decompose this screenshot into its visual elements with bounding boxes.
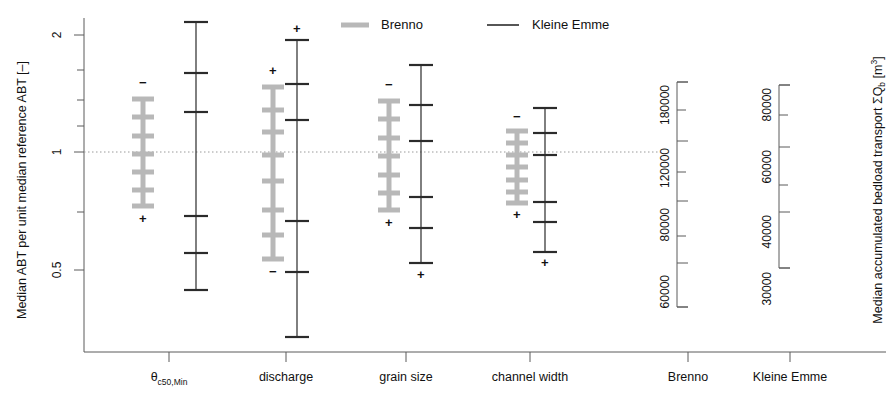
sign-kleineemme-g3-bottom: + bbox=[417, 268, 425, 281]
series-kleineemme-group-2 bbox=[285, 40, 309, 337]
x-label-discharge: discharge bbox=[236, 370, 336, 384]
x-label-theta: θc50,Min bbox=[119, 370, 219, 387]
x-label-theta-main: θ bbox=[151, 370, 158, 384]
right-axis-title: Median accumulated bedload transport ΣQb… bbox=[869, 56, 888, 323]
sign-brenno-g1-bottom: + bbox=[139, 212, 147, 225]
y-tick-label-0point5: 0.5 bbox=[50, 262, 64, 279]
figure-canvas: 2 1 0.5 Median ABT per unit median refer… bbox=[0, 0, 894, 402]
y-tick-label-1: 1 bbox=[50, 149, 64, 156]
series-brenno-group-2 bbox=[262, 85, 284, 261]
y-axis-title: Median ABT per unit median reference ABT… bbox=[15, 61, 29, 319]
x-label-brenno: Brenno bbox=[638, 370, 738, 384]
right-kleineemme-tick-40000: 40000 bbox=[760, 215, 774, 248]
right-kleineemme-tick-30000: 30000 bbox=[760, 272, 774, 305]
right-brenno-tick-60000: 60000 bbox=[658, 275, 672, 308]
sign-brenno-g4-bottom: + bbox=[513, 208, 521, 221]
x-label-grain-size: grain size bbox=[356, 370, 456, 384]
right-brenno-tick-180000: 180000 bbox=[658, 85, 672, 125]
sign-kleineemme-g2-top: + bbox=[293, 22, 301, 35]
right-axis-kleine-emme bbox=[779, 85, 790, 268]
sign-brenno-g2-bottom: − bbox=[269, 265, 277, 278]
sign-brenno-g2-top: + bbox=[269, 64, 277, 77]
series-brenno-group-1 bbox=[132, 97, 154, 208]
x-label-channel-width: channel width bbox=[470, 370, 590, 384]
sign-brenno-g3-top: − bbox=[385, 78, 393, 91]
plot-svg bbox=[0, 0, 894, 402]
series-brenno-group-4 bbox=[506, 130, 528, 205]
x-label-theta-sub: c50,Min bbox=[158, 377, 188, 387]
sign-brenno-g3-bottom: + bbox=[385, 216, 393, 229]
y-minor-ticks bbox=[77, 70, 84, 212]
sign-brenno-g1-top: − bbox=[139, 76, 147, 89]
legend-label-kleine-emme: Kleine Emme bbox=[532, 17, 609, 32]
legend-label-brenno: Brenno bbox=[381, 17, 423, 32]
series-kleineemme-group-4 bbox=[533, 108, 557, 252]
sign-kleineemme-g4-bottom: + bbox=[541, 256, 549, 269]
sign-brenno-g4-top: − bbox=[513, 110, 521, 123]
series-brenno-group-3 bbox=[378, 99, 400, 212]
right-kleineemme-tick-60000: 60000 bbox=[760, 150, 774, 183]
x-label-kleine-emme: Kleine Emme bbox=[730, 370, 850, 384]
series-kleineemme-group-1 bbox=[184, 22, 208, 290]
series-kleineemme-group-3 bbox=[409, 65, 433, 263]
x-ticks bbox=[169, 352, 790, 362]
right-kleineemme-tick-80000: 80000 bbox=[760, 88, 774, 121]
right-brenno-tick-80000: 80000 bbox=[658, 208, 672, 241]
right-brenno-tick-120000: 120000 bbox=[658, 148, 672, 188]
right-axis-brenno bbox=[677, 82, 688, 307]
y-tick-label-2: 2 bbox=[50, 32, 64, 39]
